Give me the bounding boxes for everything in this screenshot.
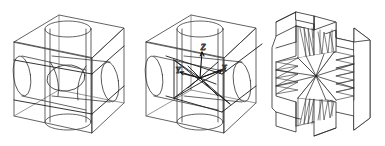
axis-label-z: Z [200,42,206,52]
cube-right-face [224,28,256,133]
panel-cube-with-labeled-axes: Z Y X [130,0,265,146]
block-right-face [354,40,370,130]
cylinder-horizontal-y [143,55,218,110]
axis-label-x: X [220,63,227,73]
cylinder-vertical-z [45,21,91,130]
cube-right-face [92,28,124,133]
cylinder-horizontal-x [52,56,121,103]
cube-top-face [14,15,124,58]
axis-label-y: Y [175,65,181,75]
panel-wireframe-cube-with-cylinders [0,0,135,146]
panel-3-drawing [262,0,385,146]
panel-2-drawing: Z Y X [130,0,265,146]
panel-triangulated-solid-mesh [262,0,385,146]
figure-root: Z Y X [0,0,385,146]
panel-1-drawing [0,0,135,146]
